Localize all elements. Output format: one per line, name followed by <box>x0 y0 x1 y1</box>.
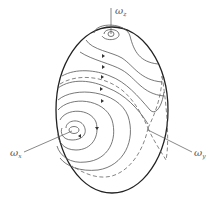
polhode-diagram <box>0 0 214 202</box>
label-symbol: ω <box>115 5 123 16</box>
arrow-icon <box>100 87 103 91</box>
arrow-icon <box>101 75 104 79</box>
label-symbol: ω <box>194 147 202 158</box>
label-subscript: y <box>202 152 205 159</box>
arrow-icon <box>102 65 105 69</box>
top-center-trajectories <box>80 25 164 96</box>
ellipsoid-outline <box>56 27 168 193</box>
label-symbol: ω <box>10 147 18 158</box>
arrow-icon <box>101 99 104 103</box>
label-subscript: z <box>123 10 126 17</box>
arrow-icon <box>95 127 99 130</box>
label-omega-z: ωz <box>115 6 126 17</box>
label-omega-x: ωx <box>10 148 22 159</box>
direction-arrows <box>78 54 105 138</box>
left-center-trajectories <box>57 92 130 170</box>
arrow-icon <box>102 54 105 58</box>
leader-line-left <box>24 131 72 152</box>
label-subscript: x <box>18 152 21 159</box>
arrow-icon <box>78 134 81 138</box>
label-omega-y: ωy <box>194 148 206 159</box>
